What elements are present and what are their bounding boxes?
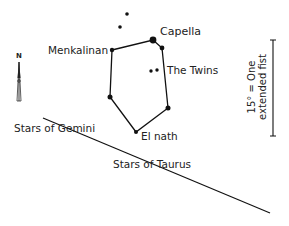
label-the-twins: The Twins <box>167 65 218 76</box>
auriga-outline <box>110 40 168 132</box>
label-capella: Capella <box>160 26 201 37</box>
star-menkalinan <box>110 48 114 52</box>
star-twin-1 <box>149 69 152 72</box>
label-stars-of-gemini: Stars of Gemini <box>14 123 95 134</box>
star-chart-canvas <box>0 0 289 226</box>
scale-caption-line1: 15° = One <box>247 39 258 135</box>
compass-north-label: N <box>16 53 22 60</box>
label-el-nath: El nath <box>141 131 178 142</box>
star-left-lower <box>108 95 113 100</box>
star-twin-2 <box>155 68 158 71</box>
star-upper-1 <box>125 12 129 16</box>
star-capella <box>150 37 157 44</box>
label-stars-of-taurus: Stars of Taurus <box>113 159 191 170</box>
north-arrow-icon <box>17 62 21 101</box>
star-capella-companion <box>160 46 165 51</box>
star-elnath <box>134 130 138 134</box>
star-right-lower <box>166 106 171 111</box>
scale-caption-line2: extended fist <box>258 39 269 135</box>
label-menkalinan: Menkalinan <box>48 45 108 56</box>
star-upper-2 <box>118 25 122 29</box>
scale-caption: 15° = One extended fist <box>247 39 268 135</box>
